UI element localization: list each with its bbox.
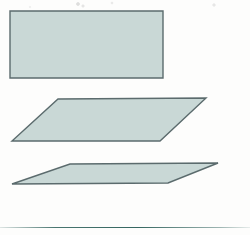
figure-container: FIGURE 12.45 Three parallelograms: [0, 0, 250, 235]
figure-caption-row: FIGURE 12.45 Three parallelograms: [0, 188, 250, 220]
shape-slanted-parallelogram: [12, 98, 206, 141]
shape-rectangle: [10, 11, 163, 78]
bottom-divider-rule: [0, 227, 250, 228]
shape-flat-parallelogram: [12, 163, 218, 184]
